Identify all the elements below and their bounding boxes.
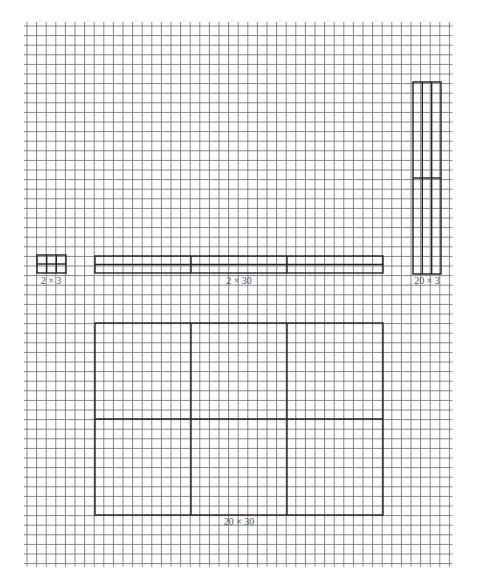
label-2x3: 2 × 3 [41,275,62,286]
label-2x30: 2 × 30 [226,275,252,286]
grid-lines [24,22,452,567]
rect-20x3 [413,82,441,274]
graph-paper-diagram [0,0,480,586]
rect-2x30 [95,256,383,273]
label-20x30: 20 × 30 [224,516,255,527]
rect-20x30 [95,323,383,515]
rect-2x3 [37,255,66,273]
label-20x3: 20 × 3 [414,275,440,286]
